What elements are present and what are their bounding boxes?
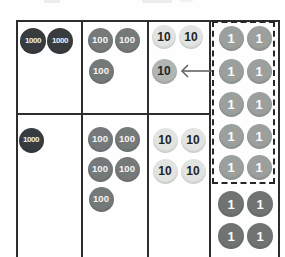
disk-1: 1 [219, 92, 244, 117]
disk-1: 1 [247, 191, 273, 217]
disk-100: 100 [88, 28, 113, 53]
disk-10: 10 [152, 59, 177, 84]
place-value-chart: 1000100010010010010101011111111111111100… [0, 0, 285, 257]
disk-10: 10 [181, 128, 206, 153]
disk-100: 100 [115, 127, 140, 152]
table-row-divider [16, 113, 211, 115]
disk-10: 10 [153, 128, 178, 153]
disk-1: 1 [218, 191, 244, 217]
disk-1000: 1000 [47, 28, 73, 54]
table-divider-thousands-hundreds [81, 20, 83, 257]
cropped-artifact [142, 0, 172, 3]
cropped-artifact [179, 0, 193, 2]
disk-1: 1 [247, 59, 272, 84]
disk-1: 1 [247, 155, 272, 180]
disk-1: 1 [219, 155, 244, 180]
table-divider-hundreds-tens [147, 20, 149, 257]
disk-10: 10 [181, 159, 206, 184]
disk-1: 1 [219, 59, 244, 84]
disk-1: 1 [247, 223, 273, 249]
disk-10: 10 [153, 159, 178, 184]
table-divider-tens-ones [209, 20, 211, 257]
disk-1: 1 [247, 124, 272, 149]
table-border-left [16, 20, 18, 257]
disk-100: 100 [115, 28, 140, 53]
disk-1: 1 [247, 26, 272, 51]
cropped-artifact [44, 0, 60, 3]
disk-100: 100 [115, 157, 140, 182]
disk-10: 10 [179, 25, 203, 49]
disk-1000: 1000 [19, 128, 44, 153]
disk-100: 100 [89, 59, 114, 84]
table-border-right [278, 20, 280, 257]
disk-1: 1 [218, 223, 244, 249]
disk-100: 100 [88, 157, 113, 182]
disk-1000: 1000 [20, 28, 46, 54]
disk-1: 1 [247, 92, 272, 117]
disk-1: 1 [219, 26, 244, 51]
disk-10: 10 [152, 25, 176, 49]
disk-1: 1 [219, 124, 244, 149]
disk-100: 100 [89, 187, 114, 212]
disk-100: 100 [88, 127, 113, 152]
